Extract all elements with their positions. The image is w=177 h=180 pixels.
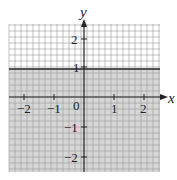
y-tick-label-m2: −2 [64, 150, 78, 165]
y-tick-label-m1: −1 [64, 120, 78, 135]
inequality-graph: x y −2 −1 0 1 2 2 1 −1 −2 [0, 0, 177, 180]
origin-label: 0 [73, 98, 80, 113]
x-axis-arrow-icon [160, 94, 168, 100]
y-tick-label-1: 1 [73, 60, 80, 75]
x-tick-label-m1: −1 [47, 101, 61, 116]
y-axis-label: y [78, 4, 87, 20]
y-tick-label-2: 2 [71, 32, 78, 47]
x-tick-label-m2: −2 [17, 101, 31, 116]
x-tick-label-1: 1 [111, 101, 118, 116]
y-axis-arrow-icon [81, 19, 87, 27]
x-axis-label: x [167, 90, 175, 106]
x-tick-label-2: 2 [140, 101, 147, 116]
